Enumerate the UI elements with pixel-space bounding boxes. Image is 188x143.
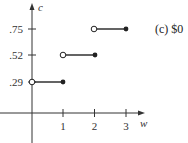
y-tick-label-052: .52 <box>1 50 23 61</box>
y-axis-arrow-icon <box>30 3 35 10</box>
x-axis-label: w <box>140 118 147 129</box>
closed-endpoint-icon <box>124 27 129 32</box>
y-tick-label-075: .75 <box>1 24 23 35</box>
y-axis-label: c <box>38 2 43 13</box>
closed-endpoint-icon <box>93 53 98 58</box>
y-tick-label-029: .29 <box>1 77 23 88</box>
open-endpoint-icon <box>29 79 35 85</box>
answer-caption: (c) $0 <box>155 22 183 37</box>
x-tick-label-1: 1 <box>58 121 68 132</box>
open-endpoint-icon <box>60 52 66 58</box>
x-axis-arrow-icon <box>138 111 145 116</box>
x-tick-label-2: 2 <box>90 121 100 132</box>
step-segment-2 <box>60 52 97 58</box>
x-tick-label-3: 3 <box>121 121 131 132</box>
open-endpoint-icon <box>91 26 97 32</box>
closed-endpoint-icon <box>61 80 66 85</box>
step-segment-3 <box>91 26 128 32</box>
step-segment-1 <box>29 79 65 85</box>
